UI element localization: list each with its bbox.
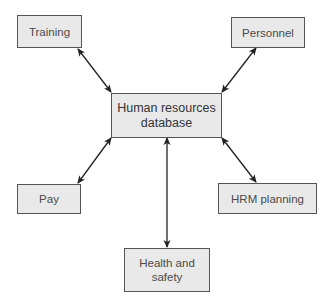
node-pay: Pay xyxy=(17,184,81,214)
arrow-training-to-database xyxy=(78,49,111,92)
node-hrm-planning: HRM planning xyxy=(218,183,317,214)
node-health-and-safety-label: Health and safety xyxy=(139,256,195,284)
node-training: Training xyxy=(17,15,82,48)
arrow-hrm-planning-to-database xyxy=(222,138,256,182)
diagram-canvas: Training Personnel Human resources datab… xyxy=(0,0,332,306)
arrow-personnel-to-database xyxy=(222,48,256,92)
node-human-resources-database: Human resources database xyxy=(111,93,222,138)
node-pay-label: Pay xyxy=(39,192,59,206)
node-personnel: Personnel xyxy=(231,17,305,48)
node-training-label: Training xyxy=(29,25,70,39)
node-hrm-planning-label: HRM planning xyxy=(231,192,304,206)
arrow-pay-to-database xyxy=(78,138,111,183)
node-center-label: Human resources database xyxy=(117,101,216,131)
node-health-and-safety: Health and safety xyxy=(124,248,210,292)
node-personnel-label: Personnel xyxy=(242,26,294,40)
